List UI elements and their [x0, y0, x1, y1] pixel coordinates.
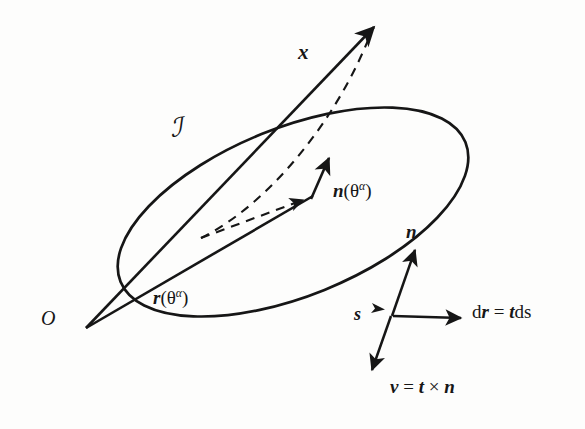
- label-position-vector-x: x: [298, 42, 309, 63]
- label-surface-symbol: ℐ: [169, 113, 184, 140]
- label-dr-equation: dr = tds: [472, 302, 531, 321]
- point-s-direction-marker: [371, 303, 385, 313]
- label-surface-normal-field-symbol: n: [333, 180, 344, 201]
- label-surface-normal-arg-close: ): [365, 180, 371, 201]
- label-binormal-cross: ×: [424, 376, 444, 397]
- vector-r-line: [86, 196, 313, 328]
- label-binormal-equation: ν = t × n: [390, 377, 455, 396]
- label-dr-vector-r: r: [482, 301, 489, 322]
- label-origin: O: [41, 308, 55, 328]
- label-arclength-s: s: [354, 305, 361, 323]
- label-dr-differential: d: [472, 301, 482, 322]
- vector-nu-line: [372, 316, 391, 370]
- label-dr-equals: =: [489, 301, 509, 322]
- diagram-canvas: [0, 0, 585, 429]
- label-surface-normal-field: n(θα): [333, 181, 372, 200]
- vector-t-line: [393, 316, 461, 318]
- vector-n-theta-line: [311, 158, 329, 199]
- vector-x-line: [86, 27, 374, 328]
- vector-n-curve-line: [392, 250, 415, 316]
- label-dr-ds: ds: [514, 301, 531, 322]
- label-binormal-equals: =: [398, 376, 418, 397]
- surface-diagram-figure: x ℐ n(θα) r(θα) O s n dr = tds ν = t × n: [0, 0, 585, 429]
- surface-boundary-ellipse: [89, 64, 497, 359]
- label-binormal-vector-n: n: [444, 376, 455, 397]
- label-position-field-r: r(θα): [153, 288, 188, 307]
- label-curve-normal-n: n: [406, 222, 417, 241]
- dashed-connector-to-x-tip: [201, 30, 372, 238]
- label-position-field-arg-close: ): [182, 287, 188, 308]
- label-surface-normal-arg-open: (θ: [344, 180, 359, 201]
- label-position-field-arg-open: (θ: [160, 287, 175, 308]
